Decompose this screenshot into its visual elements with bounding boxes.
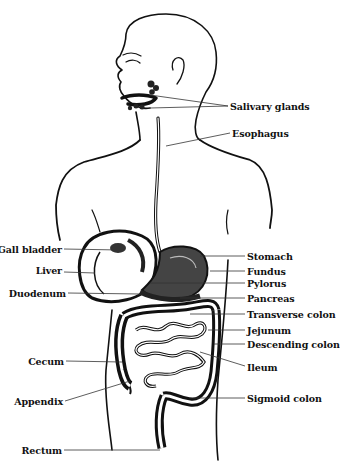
eye-outline bbox=[126, 60, 140, 63]
label-jejunum: Jejunum bbox=[247, 325, 291, 336]
label-transverse-colon: Transverse colon bbox=[247, 309, 335, 320]
label-pancreas: Pancreas bbox=[247, 293, 295, 304]
label-salivary-glands: Salivary glands bbox=[230, 101, 310, 112]
label-ileum: Ileum bbox=[247, 362, 278, 373]
label-fundus: Fundus bbox=[247, 266, 286, 277]
body-side-left bbox=[106, 310, 112, 450]
ear-outline bbox=[172, 58, 184, 84]
label-pylorus: Pylorus bbox=[247, 278, 286, 289]
label-duodenum: Duodenum bbox=[9, 288, 66, 299]
eyebrow bbox=[123, 53, 141, 56]
torso-right bbox=[200, 140, 272, 228]
label-rectum: Rectum bbox=[22, 445, 62, 456]
label-gall-bladder: Gall bladder bbox=[0, 244, 62, 255]
label-liver: Liver bbox=[36, 265, 62, 276]
label-appendix: Appendix bbox=[14, 396, 63, 407]
head-outline bbox=[116, 14, 216, 140]
neck-front bbox=[136, 112, 140, 140]
label-cecum: Cecum bbox=[28, 356, 64, 367]
armpit-right bbox=[227, 210, 229, 234]
label-stomach: Stomach bbox=[247, 251, 293, 262]
label-descending-colon: Descending colon bbox=[247, 339, 340, 350]
gall-bladder bbox=[110, 243, 126, 253]
label-sigmoid-colon: Sigmoid colon bbox=[247, 393, 322, 404]
label-esophagus: Esophagus bbox=[232, 128, 289, 139]
armpit-left bbox=[92, 210, 100, 232]
